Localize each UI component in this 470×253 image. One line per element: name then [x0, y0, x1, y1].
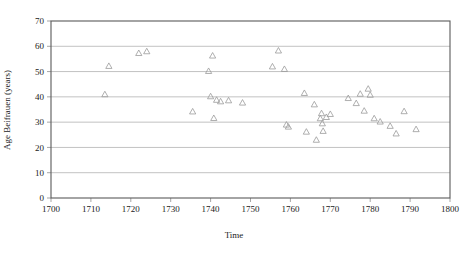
- data-point: [281, 66, 287, 72]
- data-point: [353, 100, 359, 106]
- x-tick-label-1790: 1790: [401, 204, 420, 214]
- data-point: [102, 91, 108, 97]
- data-point: [367, 92, 373, 98]
- x-tick-label-1700: 1700: [42, 204, 61, 214]
- y-axis-title: Age Beifrauen (years): [2, 70, 12, 150]
- data-point: [208, 93, 214, 99]
- data-point: [327, 111, 333, 117]
- x-tick-label-1780: 1780: [361, 204, 380, 214]
- data-point: [320, 128, 326, 134]
- data-point: [313, 137, 319, 143]
- data-point: [190, 108, 196, 114]
- scatter-plot: 010203040506070 170017101720173017401750…: [0, 0, 470, 253]
- y-axis-tick-labels: 010203040506070: [35, 16, 45, 203]
- y-tickmarks: [47, 21, 51, 198]
- data-point: [365, 86, 371, 92]
- x-tick-label-1760: 1760: [281, 204, 300, 214]
- y-tick-label-60: 60: [35, 41, 45, 51]
- y-tick-label-70: 70: [35, 16, 45, 26]
- x-tick-label-1740: 1740: [202, 204, 221, 214]
- data-point: [371, 115, 377, 121]
- data-point: [401, 108, 407, 114]
- x-tickmarks: [51, 198, 450, 202]
- x-tick-label-1800: 1800: [441, 204, 460, 214]
- y-tick-label-50: 50: [35, 67, 45, 77]
- data-point: [318, 110, 324, 116]
- data-point: [217, 98, 223, 104]
- data-point: [206, 68, 212, 74]
- data-point: [136, 50, 142, 56]
- data-point: [357, 91, 363, 97]
- x-tick-label-1710: 1710: [82, 204, 101, 214]
- data-point: [269, 63, 275, 69]
- data-point: [393, 130, 399, 136]
- x-tick-label-1750: 1750: [242, 204, 261, 214]
- data-point: [275, 47, 281, 53]
- data-point: [225, 97, 231, 103]
- data-point: [345, 95, 351, 101]
- y-tick-label-40: 40: [35, 92, 45, 102]
- y-tick-label-0: 0: [40, 193, 45, 203]
- y-tick-label-10: 10: [35, 168, 45, 178]
- data-point: [413, 126, 419, 132]
- data-point: [239, 100, 245, 106]
- chart-figure: 010203040506070 170017101720173017401750…: [0, 0, 470, 253]
- data-point: [144, 48, 150, 54]
- data-points: [102, 47, 419, 142]
- gridlines: [51, 46, 450, 172]
- x-tick-label-1720: 1720: [122, 204, 141, 214]
- x-axis-tick-labels: 1700171017201730174017501760177017801790…: [42, 204, 460, 214]
- data-point: [106, 63, 112, 69]
- y-tick-label-20: 20: [35, 143, 45, 153]
- x-tick-label-1730: 1730: [162, 204, 181, 214]
- x-tick-label-1770: 1770: [321, 204, 340, 214]
- data-point: [377, 119, 383, 125]
- y-tick-label-30: 30: [35, 117, 45, 127]
- data-point: [301, 90, 307, 96]
- x-axis-title: Time: [225, 230, 244, 240]
- data-point: [211, 115, 217, 121]
- data-point: [303, 129, 309, 135]
- plot-area-border: [51, 21, 450, 198]
- data-point: [209, 53, 215, 59]
- data-point: [311, 101, 317, 107]
- data-point: [361, 108, 367, 114]
- data-point: [387, 123, 393, 129]
